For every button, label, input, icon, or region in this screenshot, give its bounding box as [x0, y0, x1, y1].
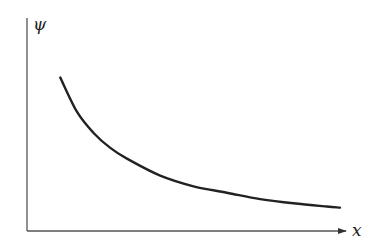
- chart: ψ x: [0, 0, 380, 247]
- x-axis-label: x: [352, 220, 362, 240]
- y-axis-label: ψ: [33, 14, 47, 34]
- data-curve: [60, 78, 340, 208]
